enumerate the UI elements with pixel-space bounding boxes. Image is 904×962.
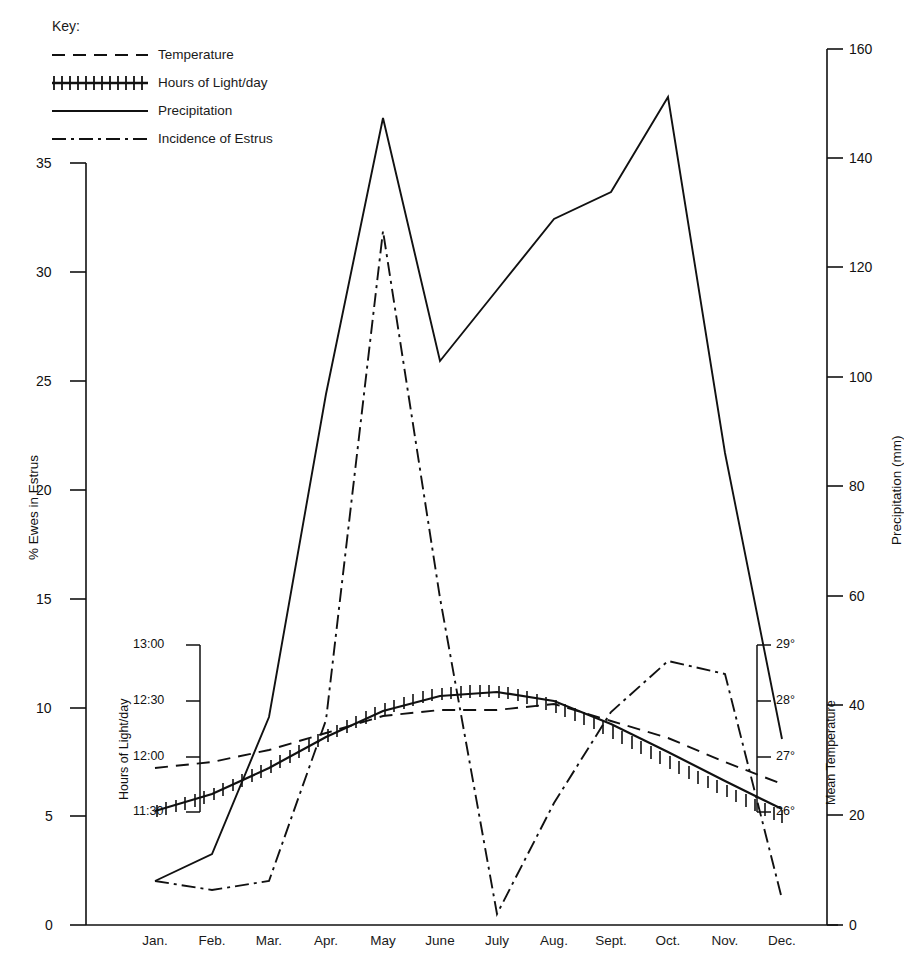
- inset-left-tick-1230: 12:30: [133, 693, 164, 707]
- left-tick-30: 30: [36, 264, 52, 280]
- x-tick-apr: Apr.: [296, 933, 356, 948]
- right-tick-0: 0: [849, 917, 857, 933]
- inset-right-axis-title: Mean Temperature: [824, 700, 838, 805]
- right-tick-80: 80: [849, 478, 865, 494]
- key-label-temperature: Temperature: [158, 47, 234, 62]
- x-tick-nov: Nov.: [695, 933, 755, 948]
- inset-left-tick-1130: 11:30: [133, 804, 163, 818]
- inset-right-tick-26: 26°: [776, 804, 795, 818]
- left-tick-35: 35: [36, 155, 52, 171]
- x-tick-dec: Dec.: [752, 933, 812, 948]
- left-tick-25: 25: [36, 373, 52, 389]
- right-tick-100: 100: [849, 369, 872, 385]
- left-tick-15: 15: [36, 591, 52, 607]
- x-tick-aug: Aug.: [524, 933, 584, 948]
- x-tick-july: July: [467, 933, 527, 948]
- x-tick-mar: Mar.: [239, 933, 299, 948]
- x-tick-feb: Feb.: [182, 933, 242, 948]
- right-tick-160: 160: [849, 41, 872, 57]
- inset-right-tick-28: 28°: [776, 693, 795, 707]
- left-tick-0: 0: [45, 917, 53, 933]
- inset-right-tick-27: 27°: [776, 749, 795, 763]
- x-tick-sept: Sept.: [581, 933, 641, 948]
- inset-right-tick-29: 29°: [776, 637, 795, 651]
- key-label-hours-of-light: Hours of Light/day: [158, 75, 268, 90]
- key-title: Key:: [52, 18, 80, 34]
- right-tick-40: 40: [849, 697, 865, 713]
- x-tick-june: June: [410, 933, 470, 948]
- left-tick-5: 5: [45, 808, 53, 824]
- inset-left-tick-1200: 12:00: [133, 749, 164, 763]
- main-left-axis: [70, 163, 86, 925]
- left-tick-10: 10: [36, 700, 52, 716]
- right-tick-20: 20: [849, 807, 865, 823]
- series-temperature: [155, 704, 782, 784]
- right-tick-140: 140: [849, 150, 872, 166]
- right-tick-120: 120: [849, 259, 872, 275]
- x-tick-jan: Jan.: [125, 933, 185, 948]
- key-swatches: [52, 55, 148, 139]
- inset-left-tick-1300: 13:00: [133, 637, 164, 651]
- inset-left-axis-title: Hours of Light/day: [117, 699, 131, 800]
- x-tick-may: May: [353, 933, 413, 948]
- key-label-precipitation: Precipitation: [158, 103, 232, 118]
- x-tick-oct: Oct.: [638, 933, 698, 948]
- left-axis-title: % Ewes in Estrus: [26, 455, 41, 560]
- key-label-incidence-of-estrus: Incidence of Estrus: [158, 131, 273, 146]
- series-precipitation: [155, 97, 782, 881]
- series-incidence-of-estrus: [155, 231, 782, 914]
- inset-left-axis: [186, 645, 200, 812]
- right-axis-title: Precipitation (mm): [889, 435, 904, 545]
- right-tick-60: 60: [849, 588, 865, 604]
